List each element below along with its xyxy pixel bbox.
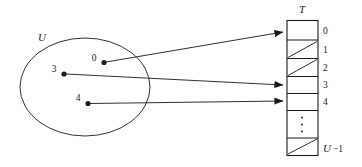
key-dot-0 — [101, 60, 106, 65]
slot-index-label-2: 2 — [323, 63, 328, 73]
universe-label: U — [38, 31, 47, 43]
slot-index-label-last-u: U — [323, 142, 332, 154]
hash-table-outline — [287, 21, 318, 156]
key-dot-4 — [85, 101, 90, 106]
key-label-3: 3 — [52, 64, 57, 74]
direct-address-table-figure: U 0 3 4 T 0 1 2 — [0, 0, 362, 167]
ellipsis-dot-2 — [301, 124, 303, 126]
key-dot-3 — [61, 71, 66, 76]
slot-index-label-0: 0 — [323, 26, 328, 36]
key-label-4: 4 — [76, 93, 81, 103]
mapping-arrow-key3-to-slot3 — [66, 74, 283, 85]
slot-index-label-1: 1 — [323, 45, 328, 55]
figure-canvas: U 0 3 4 T 0 1 2 — [0, 0, 362, 167]
ellipsis-dot-3 — [301, 131, 303, 133]
empty-slash-slot-1 — [288, 42, 317, 58]
mapping-arrow-key0-to-slot0 — [106, 32, 283, 62]
empty-slash-slot-last — [288, 139, 317, 154]
slot-index-label-4: 4 — [323, 97, 328, 107]
slot-index-label-last-suffix: −1 — [333, 144, 343, 154]
table-label: T — [299, 3, 306, 15]
ellipsis-dot-1 — [301, 117, 303, 119]
mapping-arrow-key4-to-slot4 — [90, 101, 283, 104]
slot-index-label-3: 3 — [323, 80, 328, 90]
empty-slash-slot-2 — [288, 60, 317, 76]
universe-ellipse — [20, 38, 150, 136]
key-label-0: 0 — [92, 53, 97, 63]
